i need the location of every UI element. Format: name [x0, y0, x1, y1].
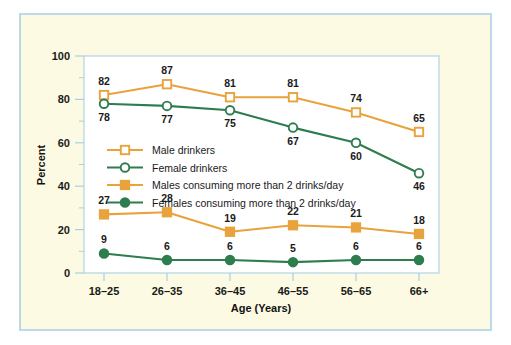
- y-tick-label: 80: [58, 93, 70, 105]
- figure-frame: 020406080100 18–2526–3536–4546–5556–6566…: [19, 13, 492, 331]
- data-point-marker: [100, 99, 109, 108]
- data-point-marker: [163, 80, 171, 88]
- legend-marker: [121, 181, 129, 189]
- data-point-label: 87: [161, 64, 173, 76]
- data-point-label: 6: [164, 240, 170, 252]
- x-tick-label: 18–25: [89, 285, 120, 297]
- x-tick-label: 66+: [410, 285, 429, 297]
- data-point-label: 78: [98, 111, 110, 123]
- x-axis-title: Age (Years): [231, 302, 292, 314]
- data-point-label: 82: [98, 75, 110, 87]
- data-point-label: 81: [224, 77, 236, 89]
- data-point-marker: [163, 208, 171, 216]
- legend-label: Males consuming more than 2 drinks/day: [152, 179, 344, 191]
- data-point-label: 27: [98, 194, 110, 206]
- legend-marker: [121, 146, 129, 154]
- x-axis: 18–2526–3536–4546–5556–6566+: [89, 273, 429, 297]
- x-tick-label: 26–35: [152, 285, 183, 297]
- y-tick-label: 20: [58, 224, 70, 236]
- line-chart: 020406080100 18–2526–3536–4546–5556–6566…: [21, 15, 490, 329]
- data-point-label: 77: [161, 113, 173, 125]
- data-point-label: 75: [224, 117, 236, 129]
- y-tick-label: 40: [58, 180, 70, 192]
- data-point-marker: [100, 210, 108, 218]
- y-axis: 020406080100: [52, 50, 84, 279]
- y-tick-label: 60: [58, 137, 70, 149]
- data-point-label: 81: [287, 77, 299, 89]
- data-point-label: 74: [350, 92, 362, 104]
- data-point-marker: [163, 102, 172, 111]
- data-point-marker: [352, 256, 361, 265]
- data-point-label: 46: [413, 180, 425, 192]
- data-point-marker: [289, 123, 298, 132]
- data-point-marker: [289, 221, 297, 229]
- data-point-marker: [289, 258, 298, 267]
- x-tick-label: 56–65: [341, 285, 372, 297]
- data-point-marker: [226, 106, 235, 115]
- data-point-marker: [415, 230, 423, 238]
- x-tick-label: 36–45: [215, 285, 246, 297]
- data-point-marker: [100, 249, 109, 258]
- y-axis-title: Percent: [35, 144, 47, 185]
- data-point-marker: [352, 108, 360, 116]
- data-point-marker: [352, 139, 361, 148]
- data-point-label: 5: [290, 242, 296, 254]
- data-point-marker: [226, 256, 235, 265]
- data-point-label: 6: [416, 240, 422, 252]
- data-point-label: 21: [350, 207, 362, 219]
- legend-label: Male drinkers: [152, 144, 215, 156]
- data-point-marker: [226, 93, 234, 101]
- data-point-marker: [163, 256, 172, 265]
- data-point-marker: [289, 93, 297, 101]
- data-point-marker: [352, 223, 360, 231]
- data-point-label: 65: [413, 112, 425, 124]
- y-tick-label: 0: [64, 267, 70, 279]
- chart-page: 020406080100 18–2526–3536–4546–5556–6566…: [0, 0, 511, 345]
- data-point-label: 18: [413, 214, 425, 226]
- data-point-label: 9: [101, 233, 107, 245]
- data-point-marker: [415, 128, 423, 136]
- legend-label: Females consuming more than 2 drinks/day: [152, 197, 356, 209]
- legend-marker: [121, 198, 130, 207]
- legend-marker: [121, 163, 130, 172]
- data-point-label: 19: [224, 212, 236, 224]
- data-point-marker: [226, 228, 234, 236]
- data-point-marker: [100, 91, 108, 99]
- data-point-marker: [415, 169, 424, 178]
- y-tick-label: 100: [52, 50, 70, 62]
- x-tick-label: 46–55: [278, 285, 309, 297]
- data-point-label: 6: [227, 240, 233, 252]
- data-point-marker: [415, 256, 424, 265]
- data-point-label: 6: [353, 240, 359, 252]
- data-point-label: 60: [350, 150, 362, 162]
- legend-label: Female drinkers: [152, 162, 227, 174]
- data-point-label: 67: [287, 135, 299, 147]
